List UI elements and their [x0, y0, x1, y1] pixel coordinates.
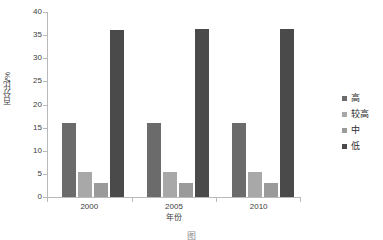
bar[interactable]: [78, 172, 92, 197]
y-axis-tick-label: 0: [22, 193, 42, 201]
y-axis-title: 百分比/%: [3, 72, 15, 105]
bar[interactable]: [264, 183, 278, 197]
y-axis-tick-label: 30: [22, 54, 42, 62]
bar[interactable]: [280, 29, 294, 197]
y-axis-tick-label: 35: [22, 31, 42, 39]
y-axis-tick-label: 5: [22, 170, 42, 178]
y-axis-tick-label: 20: [22, 101, 42, 109]
y-axis-tick-label: 40: [22, 8, 42, 16]
bar[interactable]: [163, 172, 177, 197]
chart-legend: 高较高中低: [342, 90, 382, 154]
legend-item[interactable]: 高: [342, 90, 382, 106]
legend-item[interactable]: 中: [342, 122, 382, 138]
bar-chart: 百分比/% 0510152025303540 200020052010 年份 高…: [0, 4, 383, 216]
bar[interactable]: [248, 172, 262, 197]
legend-label: 中: [351, 125, 360, 135]
y-axis-line: [47, 12, 48, 198]
legend-swatch-icon: [342, 144, 347, 149]
legend-label: 高: [351, 93, 360, 103]
y-axis-tick-label: 15: [22, 124, 42, 132]
bar[interactable]: [147, 123, 161, 197]
legend-label: 较高: [351, 109, 369, 119]
legend-swatch-icon: [342, 128, 347, 133]
y-axis-tickmark: [43, 174, 47, 175]
y-axis-tickmark: [43, 35, 47, 36]
x-axis-tick-label: 2005: [132, 202, 217, 211]
y-axis-tickmark: [43, 128, 47, 129]
y-axis-tick-labels: 0510152025303540: [16, 4, 42, 216]
y-axis-tickmark: [43, 12, 47, 13]
x-axis-tick-label: 2000: [47, 202, 132, 211]
legend-swatch-icon: [342, 96, 347, 101]
y-axis-tickmark: [43, 81, 47, 82]
legend-swatch-icon: [342, 112, 347, 117]
bar-group: [232, 12, 294, 197]
bar[interactable]: [94, 183, 108, 197]
legend-label: 低: [351, 141, 360, 151]
y-axis-tick-label: 25: [22, 77, 42, 85]
y-axis-tickmark: [43, 58, 47, 59]
y-axis-tickmark: [43, 151, 47, 152]
bar[interactable]: [110, 30, 124, 197]
x-axis-line: [47, 197, 301, 198]
y-axis-tick-label: 10: [22, 147, 42, 155]
plot-area: [47, 12, 301, 198]
y-axis-tickmark: [43, 105, 47, 106]
bar[interactable]: [179, 183, 193, 197]
figure-caption: 图: [0, 231, 383, 240]
bar[interactable]: [232, 123, 246, 197]
bar-group: [62, 12, 124, 197]
x-axis-tick-label: 2010: [216, 202, 301, 211]
bar[interactable]: [62, 123, 76, 197]
bar-group: [147, 12, 209, 197]
bar[interactable]: [195, 29, 209, 197]
legend-item[interactable]: 低: [342, 138, 382, 154]
legend-item[interactable]: 较高: [342, 106, 382, 122]
figure: 百分比/% 0510152025303540 200020052010 年份 高…: [0, 0, 383, 240]
x-axis-title: 年份: [47, 213, 301, 222]
